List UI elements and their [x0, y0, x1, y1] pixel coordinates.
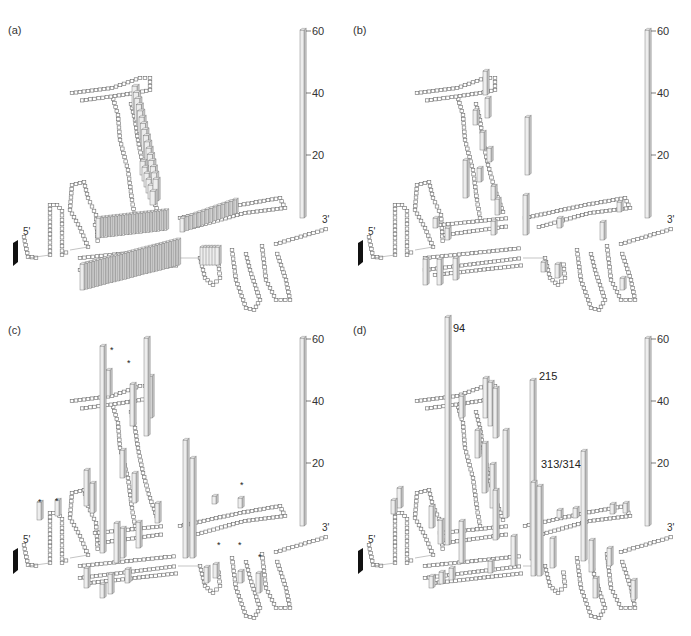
nucleotide-square [442, 97, 446, 100]
nucleotide-square [624, 606, 628, 609]
nucleotide-square [619, 606, 623, 609]
nucleotide-square [247, 264, 251, 267]
nucleotide-square [580, 214, 584, 217]
nucleotide-square [441, 547, 445, 550]
nucleotide-square [96, 581, 100, 584]
nucleotide-square [260, 244, 264, 247]
nucleotide-square [428, 184, 432, 187]
nucleotide-square [204, 530, 208, 533]
nucleotide-square [470, 401, 474, 404]
nucleotide-square [490, 176, 494, 179]
nucleotide-square [423, 564, 427, 567]
asterisk-marker: * [38, 497, 42, 507]
nucleotide-square [617, 602, 621, 605]
nucleotide-square [608, 578, 612, 581]
nucleotide-square [468, 538, 472, 541]
nucleotide-square [475, 528, 479, 531]
nucleotide-square [414, 196, 418, 199]
nucleotide-square [131, 537, 135, 540]
nucleotide-square [430, 550, 434, 553]
nucleotide-square [274, 298, 278, 301]
asterisk-marker: * [240, 480, 244, 490]
nucleotide-square [24, 243, 28, 246]
three-prime-label: 3' [667, 522, 675, 533]
nucleotide-square [601, 610, 605, 613]
nucleotide-square [501, 210, 505, 213]
nucleotide-square [69, 512, 73, 515]
nucleotide-square [428, 564, 432, 567]
nucleotide-square [147, 526, 151, 529]
nucleotide-square [592, 264, 596, 267]
nucleotide-square [596, 210, 600, 213]
nucleotide-square [451, 232, 455, 235]
nucleotide-square [367, 543, 371, 546]
nucleotide-square [258, 606, 262, 609]
nucleotide-square [632, 294, 636, 297]
nucleotide-square [140, 467, 144, 470]
nucleotide-square [415, 188, 419, 191]
nucleotide-square [471, 389, 475, 392]
nucleotide-square [463, 221, 467, 224]
nucleotide-square [282, 271, 286, 274]
nucleotide-square [484, 219, 488, 222]
nucleotide-square [90, 513, 94, 516]
nucleotide-square [555, 210, 559, 213]
nucleotide-square [283, 206, 287, 209]
nucleotide-square [623, 568, 627, 571]
nucleotide-square [279, 571, 283, 574]
nucleotide-square [604, 517, 608, 520]
nucleotide-square [586, 298, 590, 301]
nucleotide-square [76, 223, 80, 226]
nucleotide-square [438, 405, 442, 408]
nucleotide-square [596, 518, 600, 521]
nucleotide-square [139, 569, 143, 572]
nucleotide-square [551, 518, 555, 521]
nucleotide-square [320, 537, 324, 540]
nucleotide-square [70, 212, 74, 215]
nucleotide-square [254, 305, 258, 308]
nucleotide-square [324, 228, 328, 231]
nucleotide-square [252, 280, 256, 283]
nucleotide-square [599, 595, 603, 598]
nucleotide-square [78, 398, 82, 401]
nucleotide-square [121, 560, 125, 563]
nucleotide-square [451, 87, 455, 90]
nucleotide-square [83, 546, 87, 549]
nucleotide-square [648, 542, 652, 545]
nucleotide-square [597, 280, 601, 283]
peak-label-94: 94 [453, 322, 465, 334]
nucleotide-square [108, 561, 112, 564]
nucleotide-square [127, 173, 131, 176]
nucleotide-square [537, 225, 541, 228]
nucleotide-square [466, 560, 470, 563]
nucleotide-square [216, 527, 220, 530]
nucleotide-square [151, 534, 155, 537]
nucleotide-square [303, 234, 307, 237]
nucleotide-square [274, 197, 278, 200]
nucleotide-square [146, 575, 150, 578]
nucleotide-square [478, 576, 482, 579]
nucleotide-square [299, 235, 303, 238]
tick-label: 40 [312, 395, 324, 407]
nucleotide-square [198, 520, 202, 523]
nucleotide-square [370, 247, 374, 250]
three-prime-label: 3' [667, 214, 675, 225]
nucleotide-square [70, 183, 74, 186]
nucleotide-square [551, 210, 555, 213]
nucleotide-square [168, 555, 172, 558]
nucleotide-square [60, 553, 64, 556]
nucleotide-square [130, 528, 134, 531]
panel-label: (d) [353, 324, 366, 336]
nucleotide-square [262, 565, 266, 568]
nucleotide-square [158, 574, 162, 577]
nucleotide-square [632, 602, 636, 605]
nucleotide-square [467, 390, 471, 393]
nucleotide-square [478, 524, 482, 527]
nucleotide-square [218, 276, 222, 279]
nucleotide-square [640, 544, 644, 547]
nucleotide-square [104, 562, 108, 565]
nucleotide-square [456, 572, 460, 575]
nucleotide-square [91, 563, 95, 566]
nucleotide-square [419, 490, 423, 493]
nucleotide-square [430, 242, 434, 245]
